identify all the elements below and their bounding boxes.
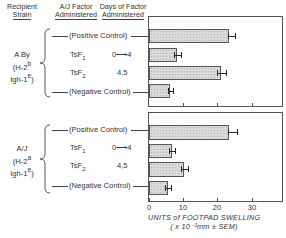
strain-label-aj: A/J (H-2a Igh-1e) [2, 145, 42, 178]
error-bar-cap [235, 33, 236, 39]
error-bar [174, 55, 181, 56]
tsf2-label: TsF2 [70, 161, 86, 174]
strain-name: A By [2, 51, 42, 60]
error-bar-cap [174, 52, 175, 58]
bar-aby-tsf1 [149, 48, 177, 62]
axis-tick-label: 0 [141, 203, 157, 212]
error-bar-cap [173, 88, 174, 94]
bar-aby-positive-control [149, 29, 229, 43]
positive-control-line-right [131, 36, 148, 37]
error-bar-cap [217, 70, 218, 76]
error-bar-cap [165, 185, 166, 191]
error-bar-cap [169, 148, 170, 154]
error-bar-cap [181, 166, 182, 172]
haplotype-sup: a [28, 154, 32, 161]
axis-tick [217, 198, 218, 202]
strain-igh: Igh-1e) [2, 72, 42, 84]
error-bar-cap [171, 185, 172, 191]
axis-tick [217, 103, 218, 107]
bar-aj-positive-control [149, 125, 229, 140]
axis-tick-label: 10 [175, 203, 191, 212]
tsf1-label: TsF1 [70, 143, 86, 156]
header-factor: A/J Factor Administered [52, 3, 100, 20]
tsf-text: TsF [70, 68, 82, 77]
positive-control-line-left [52, 36, 68, 37]
haplotype-text: H-2 [15, 156, 27, 165]
tsf2-days: 4,5 [117, 161, 128, 170]
curly-brace-icon [38, 124, 52, 194]
axis-tick [252, 198, 253, 202]
axis-tick [183, 103, 184, 107]
igh-sup: e [28, 72, 32, 79]
tsf1-days: 0⟶4 [112, 50, 131, 59]
error-bar-cap [188, 166, 189, 172]
haplotype-sup: b [28, 60, 32, 67]
strain-name: A/J [2, 145, 42, 154]
error-bar-cap [226, 70, 227, 76]
error-bar [228, 132, 237, 133]
tsf2-days: 4,5 [117, 68, 128, 77]
x-axis-title: UNITS of FOOTPAD SWELLING [148, 213, 260, 222]
error-bar [181, 169, 188, 170]
header-recipient-strain: Recipient Strain [2, 3, 42, 20]
header-days-line2: Administered [102, 11, 144, 20]
x-axis-units: ( x 10⁻²mm ± SEM) [148, 222, 260, 231]
tsf-sub: 1 [82, 148, 85, 154]
igh-text: Igh-1 [10, 74, 27, 83]
error-bar-cap [168, 88, 169, 94]
bar-aby-negative-control [149, 84, 170, 98]
tsf-text: TsF [70, 143, 82, 152]
negative-control-label: (Negative Control) [69, 181, 131, 190]
error-bar-cap [228, 129, 229, 135]
tsf2-label: TsF2 [70, 68, 86, 81]
tsf1-label: TsF1 [70, 50, 86, 63]
positive-control-line-right [131, 130, 148, 131]
bar-aj-tsf2 [149, 162, 184, 177]
header-recipient-line2: Strain [13, 11, 32, 20]
bar-aby-tsf2 [149, 66, 221, 80]
negative-control-line-right [133, 92, 148, 93]
axis-tick-label: 20 [209, 203, 225, 212]
error-bar [217, 73, 226, 74]
tsf-text: TsF [70, 161, 82, 170]
igh-sup: e [28, 166, 32, 173]
negative-control-line-left [52, 186, 68, 187]
error-bar-cap [175, 148, 176, 154]
error-bar-cap [181, 52, 182, 58]
negative-control-line-right [133, 186, 148, 187]
header-factor-line2: Administered [55, 11, 97, 20]
strain-igh: Igh-1e) [2, 166, 42, 178]
axis-tick [183, 198, 184, 202]
axis-tick-label: 30 [244, 203, 260, 212]
tsf-sub: 2 [82, 73, 85, 79]
tsf-sub: 2 [82, 166, 85, 172]
error-bar [228, 36, 235, 37]
axis-tick [252, 103, 253, 107]
strain-haplotype: (H-2a [2, 154, 42, 166]
tsf-sub: 1 [82, 55, 85, 61]
tsf-text: TsF [70, 50, 82, 59]
strain-haplotype: (H-2b [2, 60, 42, 72]
positive-control-label: (Positive Control) [69, 31, 127, 40]
negative-control-line-left [52, 92, 68, 93]
curly-brace-icon [38, 28, 52, 98]
positive-control-label: (Positive Control) [69, 125, 127, 134]
axis-tick [149, 198, 150, 202]
positive-control-line-left [52, 130, 68, 131]
tsf1-days: 0⟶4 [112, 143, 131, 152]
negative-control-label: (Negative Control) [69, 87, 131, 96]
igh-text: Igh-1 [10, 168, 27, 177]
error-bar-cap [237, 129, 238, 135]
error-bar-cap [228, 33, 229, 39]
strain-label-aby: A By (H-2b Igh-1e) [2, 51, 42, 84]
header-days: Days of Factor Administered [98, 3, 148, 20]
haplotype-text: H-2 [15, 62, 27, 71]
